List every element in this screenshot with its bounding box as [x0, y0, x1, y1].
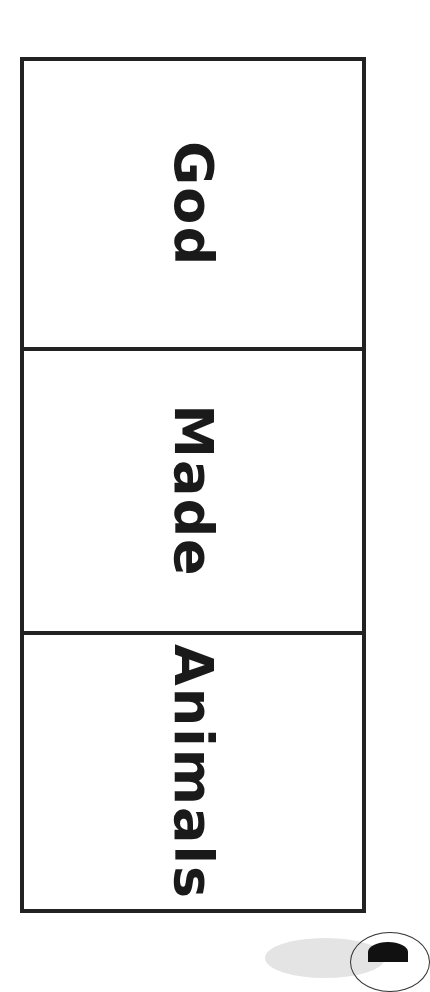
panel-animals: Animals [24, 631, 362, 909]
corner-decoration-icon [368, 942, 408, 962]
panel-word-made: Made [166, 404, 220, 577]
panel-god: God [24, 61, 362, 347]
panel-made: Made [24, 347, 362, 631]
foldable-card: God Made Animals [20, 57, 366, 913]
panel-word-god: God [166, 141, 220, 267]
panel-word-animals: Animals [166, 644, 220, 900]
corner-decoration-ring [350, 932, 430, 992]
